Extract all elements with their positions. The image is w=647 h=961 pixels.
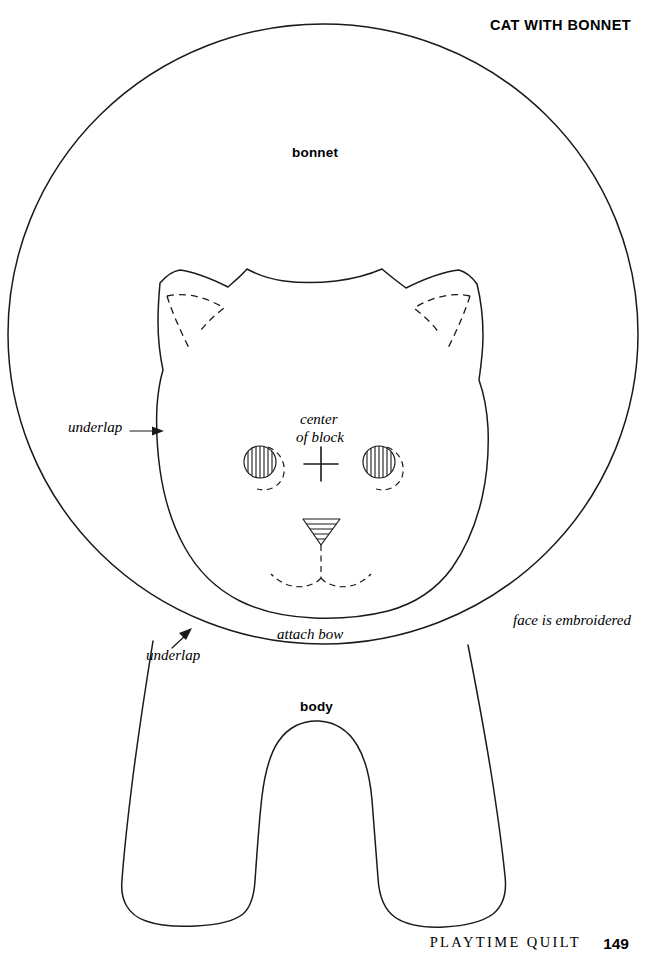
body-piece-outline <box>122 641 506 927</box>
underlap-arrow-lower <box>172 628 192 648</box>
attach-bow-label: attach bow <box>277 627 343 642</box>
right-inner-ear-marking <box>414 295 470 348</box>
bonnet-piece-label: bonnet <box>292 146 338 160</box>
center-of-block-label-line1: center <box>300 412 337 427</box>
left-eye-hatching <box>248 444 272 480</box>
footer-page-number: 149 <box>603 936 629 952</box>
center-of-block-cross <box>304 447 338 481</box>
underlap-label-left: underlap <box>68 420 122 435</box>
page-title: CAT WITH BONNET <box>490 18 631 33</box>
left-eye-marking <box>244 444 284 490</box>
right-eye-hatching <box>367 444 391 480</box>
nose-marking <box>298 519 346 545</box>
left-inner-ear-marking <box>167 295 224 348</box>
mouth-marking <box>271 545 371 587</box>
bonnet-piece-outline <box>8 24 638 644</box>
body-piece-label: body <box>300 700 333 714</box>
center-of-block-label-line2: of block <box>296 430 344 445</box>
pattern-page: CAT WITH BONNET bonnet body center of bl… <box>0 0 647 961</box>
nose-hatching <box>298 524 346 539</box>
underlap-arrow-left <box>130 427 164 436</box>
right-eye-marking <box>363 444 403 490</box>
underlap-label-lower: underlap <box>146 648 200 663</box>
footer-book-title: PLAYTIME QUILT <box>430 935 581 950</box>
face-embroidered-note: face is embroidered <box>513 613 631 628</box>
